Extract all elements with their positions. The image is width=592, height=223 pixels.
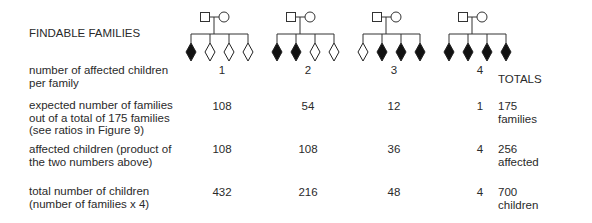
cell-expected-families-2: 54 xyxy=(288,100,328,112)
unaffected-child-diamond-icon xyxy=(205,43,215,61)
pedigree-family-4 xyxy=(440,6,512,64)
affected-child-diamond-icon xyxy=(186,43,196,61)
total-children: 700 children xyxy=(498,186,538,211)
father-square-icon xyxy=(201,13,210,22)
cell-affected-per-family-3: 3 xyxy=(374,64,414,76)
mother-circle-icon xyxy=(219,12,229,22)
cell-affected-per-family-4: 4 xyxy=(460,64,500,76)
cell-total-children-2: 216 xyxy=(288,186,328,198)
cell-total-children-1: 432 xyxy=(202,186,242,198)
affected-child-diamond-icon xyxy=(415,43,425,61)
cell-total-children-3: 48 xyxy=(374,186,414,198)
cell-affected-per-family-2: 2 xyxy=(288,64,328,76)
cell-affected-children-1: 108 xyxy=(202,143,242,155)
cell-affected-per-family-1: 1 xyxy=(202,64,242,76)
unaffected-child-diamond-icon xyxy=(358,43,368,61)
cell-total-children-4: 4 xyxy=(460,186,500,198)
unaffected-child-diamond-icon xyxy=(243,43,253,61)
pedigree-family-3 xyxy=(354,6,426,64)
cell-expected-families-1: 108 xyxy=(202,100,242,112)
row-label-affected-per-family: number of affected children per family xyxy=(29,64,168,89)
affected-child-diamond-icon xyxy=(501,43,511,61)
affected-child-diamond-icon xyxy=(291,43,301,61)
total-expected-families: 175 families xyxy=(498,100,537,125)
unaffected-child-diamond-icon xyxy=(329,43,339,61)
unaffected-child-diamond-icon xyxy=(224,43,234,61)
affected-child-diamond-icon xyxy=(377,43,387,61)
affected-child-diamond-icon xyxy=(482,43,492,61)
affected-child-diamond-icon xyxy=(463,43,473,61)
totals-header: TOTALS xyxy=(498,73,542,85)
cell-affected-children-4: 4 xyxy=(460,143,500,155)
pedigree-family-1 xyxy=(182,6,254,64)
total-affected-children: 256 affected xyxy=(498,143,539,168)
affected-child-diamond-icon xyxy=(396,43,406,61)
row-label-total-children: total number of children (number of fami… xyxy=(29,185,149,210)
cell-affected-children-2: 108 xyxy=(288,143,328,155)
cell-expected-families-3: 12 xyxy=(374,100,414,112)
affected-child-diamond-icon xyxy=(444,43,454,61)
cell-expected-families-4: 1 xyxy=(460,100,500,112)
pedigree-family-2 xyxy=(268,6,340,64)
page-title: FINDABLE FAMILIES xyxy=(29,27,140,40)
unaffected-child-diamond-icon xyxy=(310,43,320,61)
cell-affected-children-3: 36 xyxy=(374,143,414,155)
row-label-affected-children: affected children (product of the two nu… xyxy=(29,143,171,168)
affected-child-diamond-icon xyxy=(272,43,282,61)
row-label-expected-families: expected number of families out of a tot… xyxy=(29,99,173,137)
